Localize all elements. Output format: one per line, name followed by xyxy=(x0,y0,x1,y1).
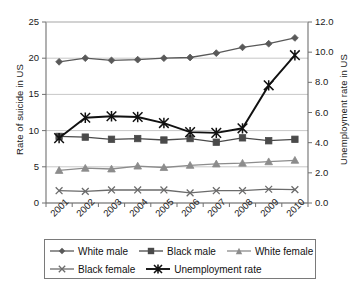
marker-square xyxy=(161,137,167,143)
legend-item[interactable]: Unemployment rate xyxy=(145,263,261,275)
legend-item[interactable]: White female xyxy=(226,245,313,257)
marker-square xyxy=(213,139,219,145)
marker-square xyxy=(108,136,114,142)
legend-marker-asterisk xyxy=(145,263,171,275)
series-line-2 xyxy=(59,160,295,170)
marker-diamond xyxy=(161,55,168,62)
legend-item[interactable]: White male xyxy=(49,245,128,257)
chart-root: Rate of suicide in US Unemployment rate … xyxy=(0,0,364,290)
marker-square xyxy=(292,136,298,142)
y-axis-left-tick-label: 10 xyxy=(15,125,39,136)
marker-square xyxy=(239,135,245,141)
marker-square xyxy=(266,138,272,144)
legend-row: Black femaleUnemployment rate xyxy=(49,260,311,278)
legend-item-label: Unemployment rate xyxy=(174,264,261,275)
series-line-4 xyxy=(59,55,295,138)
y-axis-left-tick-label: 25 xyxy=(15,16,39,27)
marker-square xyxy=(135,135,141,141)
legend-marker-square xyxy=(138,245,164,257)
y-axis-left-tick-label: 5 xyxy=(15,161,39,172)
marker-diamond xyxy=(213,50,220,57)
series-line-1 xyxy=(59,136,295,142)
series-line-3 xyxy=(59,189,295,193)
legend-item[interactable]: Black female xyxy=(49,263,135,275)
marker-diamond xyxy=(292,35,299,42)
marker-diamond xyxy=(134,56,141,63)
legend-row: White maleBlack maleWhite female xyxy=(49,242,311,260)
y-axis-right-tick-label: 12.0 xyxy=(315,16,345,27)
legend-item[interactable]: Black male xyxy=(138,245,216,257)
y-axis-left-tick-label: 0 xyxy=(15,197,39,208)
marker-asterisk xyxy=(290,50,300,60)
y-axis-right-tick-label: 6.0 xyxy=(315,107,345,118)
y-axis-right-tick-label: 4.0 xyxy=(315,137,345,148)
legend-item-label: Black male xyxy=(167,246,216,257)
legend-item-label: White male xyxy=(78,246,128,257)
y-axis-left-tick-label: 15 xyxy=(15,88,39,99)
legend-item-label: Black female xyxy=(78,264,135,275)
marker-diamond xyxy=(265,40,272,47)
y-axis-right-tick-label: 10.0 xyxy=(315,46,345,57)
legend-item-label: White female xyxy=(255,246,313,257)
chart-legend: White maleBlack maleWhite female Black f… xyxy=(44,239,316,279)
legend-marker-x xyxy=(49,263,75,275)
marker-square xyxy=(82,134,88,140)
marker-diamond xyxy=(82,55,89,62)
legend-marker-triangle xyxy=(226,245,252,257)
y-axis-left-tick-label: 20 xyxy=(15,52,39,63)
y-axis-right-tick-label: 0.0 xyxy=(315,197,345,208)
y-axis-right-tick-label: 8.0 xyxy=(315,76,345,87)
legend-marker-diamond xyxy=(49,245,75,257)
marker-asterisk xyxy=(264,80,274,90)
marker-diamond xyxy=(56,58,63,65)
marker-diamond xyxy=(187,54,194,61)
marker-diamond xyxy=(239,44,246,51)
y-axis-right-tick-label: 2.0 xyxy=(315,167,345,178)
